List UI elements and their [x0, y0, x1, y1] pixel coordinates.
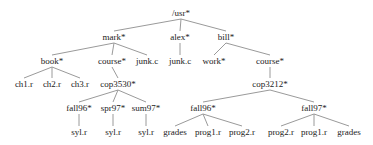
tree-node-syl1: syl.r [71, 127, 87, 137]
edge-b-fall96-to-prog2a [203, 114, 242, 126]
tree-node-spr97: spr97* [101, 103, 126, 113]
tree-node-cop3212: cop3212* [252, 79, 288, 89]
tree-node-prog2b: prog2.r [268, 127, 294, 137]
edge-bill-to-work [214, 43, 226, 55]
tree-node-alex: alex* [170, 32, 190, 42]
edge-b-fall97-to-grades2 [314, 114, 349, 126]
tree-node-alex-junk: junk.c [169, 56, 191, 66]
edge-usr-to-mark [114, 19, 181, 31]
tree-node-grades2: grades [337, 127, 361, 137]
tree-node-sum97: sum97* [132, 103, 161, 113]
tree-node-syl3: syl.r [138, 127, 154, 137]
edge-usr-to-bill [181, 19, 226, 31]
tree-node-prog1a: prog1.r [195, 127, 221, 137]
tree-node-mark-junk: junk.c [136, 56, 158, 66]
edge-cop3530-to-sum97 [118, 90, 146, 102]
tree-node-prog2a: prog2.r [229, 127, 255, 137]
edge-b-fall97-to-prog2b [281, 114, 314, 126]
tree-node-syl2: syl.r [105, 127, 121, 137]
tree-node-cop3530: cop3530* [100, 79, 136, 89]
edge-b-fall96-to-grades1 [175, 114, 203, 126]
tree-edges [0, 0, 373, 145]
edge-cop3212-to-b-fall96 [203, 90, 270, 102]
tree-node-b-fall96: fall96* [190, 103, 216, 113]
edge-bill-to-bill-course [226, 43, 270, 55]
tree-node-ch2: ch2.r [43, 79, 61, 89]
tree-node-work: work* [203, 56, 226, 66]
tree-node-bill: bill* [218, 32, 235, 42]
tree-node-bill-course: course* [256, 56, 284, 66]
edge-mark-to-mark-course [112, 43, 114, 55]
edge-mark-course-to-cop3530 [112, 67, 118, 78]
edge-mark-to-mark-junk [114, 43, 147, 55]
tree-node-b-fall97: fall97* [301, 103, 327, 113]
tree-node-usr: /usr* [172, 8, 190, 18]
tree-node-mark: mark* [103, 32, 126, 42]
edge-book-to-ch3 [52, 67, 80, 78]
edge-cop3530-to-m-fall96 [79, 90, 118, 102]
edge-cop3212-to-b-fall97 [270, 90, 314, 102]
directory-tree-diagram: /usr*mark*alex*bill*book*course*junk.cju… [0, 0, 373, 145]
edge-mark-to-book [52, 43, 114, 55]
edge-usr-to-alex [180, 19, 181, 31]
tree-node-grades1: grades [163, 127, 187, 137]
tree-node-prog1b: prog1.r [301, 127, 327, 137]
tree-node-mark-course: course* [98, 56, 126, 66]
tree-node-ch1: ch1.r [15, 79, 33, 89]
edge-book-to-ch1 [24, 67, 52, 78]
tree-node-book: book* [41, 56, 64, 66]
tree-node-ch3: ch3.r [71, 79, 89, 89]
tree-node-m-fall96: fall96* [66, 103, 92, 113]
